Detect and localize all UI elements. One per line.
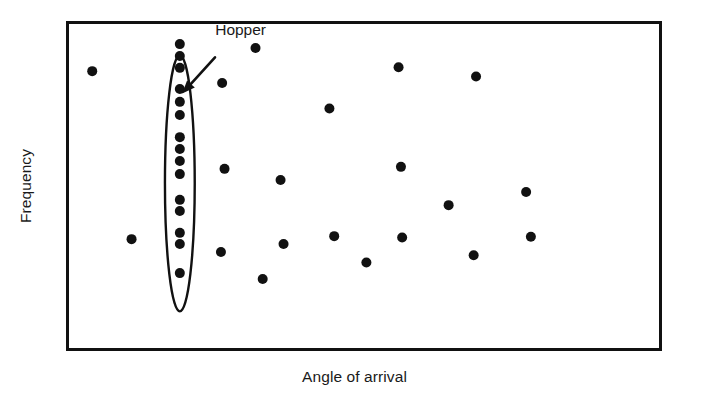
data-point <box>526 232 536 242</box>
x-axis-label: Angle of arrival <box>0 368 709 386</box>
data-point <box>279 239 289 249</box>
y-axis-label-container: Frequency <box>0 0 52 372</box>
data-point <box>175 206 185 216</box>
data-point <box>175 132 185 142</box>
data-point <box>127 234 137 244</box>
data-point <box>175 63 185 73</box>
data-point <box>175 228 185 238</box>
data-point <box>397 232 407 242</box>
data-point <box>175 195 185 205</box>
y-axis-label: Frequency <box>17 149 35 223</box>
data-point <box>329 231 339 241</box>
data-point <box>220 164 230 174</box>
data-point <box>521 187 531 197</box>
plot-canvas <box>0 0 709 408</box>
data-point <box>175 39 185 49</box>
data-point <box>471 71 481 81</box>
data-point <box>175 239 185 249</box>
data-point <box>396 162 406 172</box>
data-point <box>175 268 185 278</box>
data-point <box>175 110 185 120</box>
data-point <box>217 78 227 88</box>
data-point <box>175 169 185 179</box>
data-point <box>324 103 334 113</box>
scatter-plot-figure: Frequency Angle of arrival Hopper <box>0 0 709 408</box>
data-point <box>469 250 479 260</box>
data-point <box>251 43 261 53</box>
data-point <box>361 258 371 268</box>
hopper-annotation-label: Hopper <box>215 21 266 39</box>
data-point <box>216 247 226 257</box>
data-point <box>444 200 454 210</box>
data-point <box>394 62 404 72</box>
data-point <box>175 156 185 166</box>
data-point <box>276 175 286 185</box>
data-point <box>175 97 185 107</box>
data-point <box>258 274 268 284</box>
data-point <box>175 144 185 154</box>
plot-frame <box>68 23 661 350</box>
data-point <box>87 66 97 76</box>
